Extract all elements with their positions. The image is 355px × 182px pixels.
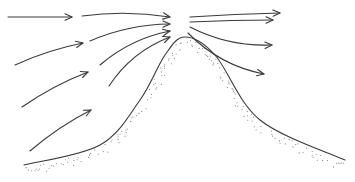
stipple-dot — [31, 170, 32, 171]
stipple-dot — [233, 91, 234, 92]
stipple-dot — [104, 144, 105, 145]
stipple-dot — [171, 63, 172, 64]
stipple-dot — [111, 139, 112, 140]
stipple-dot — [161, 75, 162, 76]
stipple-dot — [90, 153, 91, 154]
stipple-dot — [187, 42, 188, 43]
stipple-dot — [220, 78, 221, 79]
stipple-dot — [51, 165, 52, 166]
stipple-dot — [125, 129, 126, 130]
stipple-dot — [341, 163, 342, 164]
stipple-dot — [149, 89, 150, 90]
stipple-dot — [260, 126, 261, 127]
stipple-dot — [199, 48, 200, 49]
stipple-dot — [160, 67, 161, 68]
stipple-dot — [89, 154, 90, 155]
stipple-dot — [155, 89, 156, 90]
stipple-dot — [161, 71, 162, 72]
stipple-dot — [209, 59, 210, 60]
stipple-dot — [336, 163, 337, 164]
stipple-dot — [81, 161, 82, 162]
wind-arrow-shaft — [190, 20, 273, 22]
stipple-dot — [222, 80, 223, 81]
stipple-dot — [316, 154, 317, 155]
stipple-dot — [78, 157, 79, 158]
stipple-dot — [213, 62, 214, 63]
stipple-dot — [228, 82, 229, 83]
stipple-dot — [56, 163, 57, 164]
stipple-dot — [88, 157, 89, 158]
stipple-dot — [73, 165, 74, 166]
stipple-dot — [124, 136, 125, 137]
stipple-dot — [217, 63, 218, 64]
stipple-dot — [191, 45, 192, 46]
stipple-dot — [215, 59, 216, 60]
stipple-dot — [243, 116, 244, 117]
stipple-dot — [168, 60, 169, 61]
stipple-dot — [77, 159, 78, 160]
stipple-dot — [164, 66, 165, 67]
stipple-dot — [312, 151, 313, 152]
stipple-dot — [227, 87, 228, 88]
stipple-dot — [206, 55, 207, 56]
stipple-dot — [73, 160, 74, 161]
stipple-dot — [252, 120, 253, 121]
stipple-dot — [292, 146, 293, 147]
stipple-dot — [40, 165, 41, 166]
stipple-dot — [235, 105, 236, 106]
wind-arrow-shaft — [190, 27, 272, 45]
stipple-dot — [118, 136, 119, 137]
stipple-dot — [241, 109, 242, 110]
wind-arrow-shaft — [30, 110, 91, 151]
stipple-dot — [63, 164, 64, 165]
stipple-dot — [247, 120, 248, 121]
stipple-dot — [210, 56, 211, 57]
stipple-dot — [132, 116, 133, 117]
stipple-dot — [320, 155, 321, 156]
stipple-dot — [228, 80, 229, 81]
stipple-dot — [207, 56, 208, 57]
stipple-dot — [292, 140, 293, 141]
stipple-dot — [271, 131, 272, 132]
stipple-dot — [339, 163, 340, 164]
wind-arrow-shaft — [22, 72, 88, 107]
stipple-dot — [295, 144, 296, 145]
stipple-dot — [195, 42, 196, 43]
stipple-dot — [213, 64, 214, 65]
stipple-dot — [151, 94, 152, 95]
stipple-dot — [161, 84, 162, 85]
stipple-dot — [98, 153, 99, 154]
stipple-dot — [36, 168, 37, 169]
wind-arrows — [8, 10, 280, 151]
stipple-dot — [306, 147, 307, 148]
wind-arrow-shaft — [15, 43, 83, 65]
stipple-dot — [138, 113, 139, 114]
stipple-dot — [322, 160, 323, 161]
stipple-dot — [53, 166, 54, 167]
stipple-dot — [146, 108, 147, 109]
stipple-dot — [164, 75, 165, 76]
stipple-dot — [164, 68, 165, 69]
wind-arrow-shaft — [100, 31, 170, 65]
stipple-dot — [169, 58, 170, 59]
stipple-dot — [303, 152, 304, 153]
stipple-dot — [236, 102, 237, 103]
stipple-dot — [154, 79, 155, 80]
stipple-dot — [34, 170, 35, 171]
stipple-dot — [275, 138, 276, 139]
stipple-dot — [111, 141, 112, 142]
stipple-dot — [279, 140, 280, 141]
stipple-dot — [174, 58, 175, 59]
stipple-dot — [118, 139, 119, 140]
hill-ground-line — [24, 37, 345, 165]
stipple-dot — [155, 83, 156, 84]
stipple-dot — [284, 138, 285, 139]
stipple-dot — [229, 83, 230, 84]
stipple-dot — [130, 121, 131, 122]
stipple-dot — [153, 84, 154, 85]
stipple-dot — [28, 170, 29, 171]
stipple-dot — [312, 155, 313, 156]
stipple-dot — [299, 152, 300, 153]
stipple-dot — [327, 160, 328, 161]
wind-arrow-shaft — [188, 33, 264, 74]
